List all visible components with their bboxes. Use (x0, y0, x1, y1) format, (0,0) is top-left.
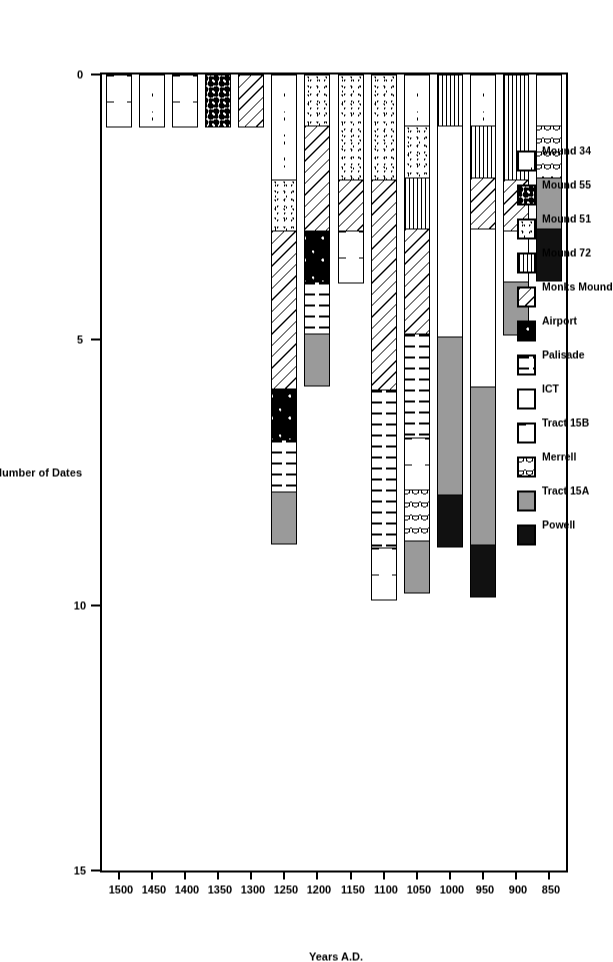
y-axis-tick-label: 10 (66, 599, 94, 611)
x-axis-tick-label-1100: 1100 (369, 883, 403, 895)
bar-segment (271, 491, 297, 544)
stacked-bars-container (102, 74, 566, 870)
legend-swatch-icon (517, 320, 536, 341)
bar-segment (304, 74, 330, 127)
bar-segment (437, 336, 463, 495)
legend-label: Airport (542, 314, 577, 326)
x-axis-tick-label-1000: 1000 (435, 883, 469, 895)
bar-group-1450 (139, 74, 165, 125)
bar-segment (371, 179, 397, 391)
x-axis-tick (250, 870, 252, 879)
x-axis-tick-label-1200: 1200 (302, 883, 336, 895)
bar-segment (437, 125, 463, 337)
bar-segment (371, 74, 397, 180)
bar-segment (271, 230, 297, 389)
bar-segment (172, 74, 198, 127)
bar-segment (205, 74, 231, 127)
bar-group-950 (470, 74, 496, 595)
x-axis-title: Years A.D. (296, 950, 376, 962)
bar-segment (470, 125, 496, 178)
bar-segment (271, 439, 297, 492)
x-axis-tick-label-1250: 1250 (269, 883, 303, 895)
bar-segment (106, 74, 132, 127)
legend-label: Mound 51 (542, 212, 591, 224)
legend-label: Palisade (542, 348, 585, 360)
bar-segment (271, 179, 297, 232)
x-axis-tick (416, 870, 418, 879)
legend-label: Merrell (542, 450, 576, 462)
legend-swatch-icon (517, 490, 536, 511)
bar-segment (470, 386, 496, 545)
legend-swatch-icon (517, 252, 536, 273)
legend-label: Tract 15A (542, 484, 589, 496)
bar-segment (437, 494, 463, 547)
bar-segment (304, 125, 330, 231)
legend-label: Monks Mound (542, 280, 613, 292)
legend-swatch-icon (517, 422, 536, 443)
bar-segment (304, 333, 330, 386)
bar-segment (404, 489, 430, 542)
bar-group-1300 (238, 74, 264, 125)
bar-segment (338, 230, 364, 283)
x-axis-tick-label-1050: 1050 (402, 883, 436, 895)
x-axis-tick-label-1350: 1350 (203, 883, 237, 895)
bar-segment (338, 179, 364, 232)
x-axis-tick (283, 870, 285, 879)
y-axis-tick-label: 5 (66, 333, 94, 345)
bar-group-1100 (371, 74, 397, 598)
bar-group-1150 (338, 74, 364, 281)
bar-segment (536, 74, 562, 127)
bar-segment (304, 281, 330, 334)
y-axis-title: Number of Dates (0, 466, 83, 478)
legend-swatch-icon (517, 354, 536, 375)
bar-group-1200 (304, 74, 330, 384)
legend-swatch-icon (517, 184, 536, 205)
x-axis-tick (151, 870, 153, 879)
x-axis-tick-label-1450: 1450 (137, 883, 171, 895)
x-axis-tick-label-1150: 1150 (336, 883, 370, 895)
x-axis-tick (383, 870, 385, 879)
bar-segment (304, 230, 330, 283)
legend-label: Mound 34 (542, 144, 591, 156)
x-axis-tick-label-1400: 1400 (170, 883, 204, 895)
legend-label: Tract 15B (542, 416, 589, 428)
x-axis-tick (449, 870, 451, 879)
bar-segment (371, 547, 397, 600)
x-axis-tick (184, 870, 186, 879)
bar-segment (404, 540, 430, 593)
bar-segment (470, 544, 496, 597)
bar-segment (470, 228, 496, 387)
bar-segment (404, 437, 430, 490)
x-axis-tick (217, 870, 219, 879)
legend-swatch-icon (517, 524, 536, 545)
legend-label: Powell (542, 518, 575, 530)
bar-group-1250 (271, 74, 297, 542)
bar-segment (404, 125, 430, 178)
y-axis-tick-label: 15 (66, 864, 94, 876)
legend-swatch-icon (517, 218, 536, 239)
bar-group-1050 (404, 74, 430, 592)
bar-segment (271, 74, 297, 180)
legend-label: ICT (542, 382, 559, 394)
x-axis-tick (118, 870, 120, 879)
legend-swatch-icon (517, 286, 536, 307)
legend-swatch-icon (517, 388, 536, 409)
legend-label: Mound 72 (542, 246, 591, 258)
bar-group-1400 (172, 74, 198, 125)
x-axis-tick (316, 870, 318, 879)
legend-label: Mound 55 (542, 178, 591, 190)
bar-segment (404, 177, 430, 230)
bar-segment (470, 177, 496, 230)
bar-segment (271, 388, 297, 441)
bar-segment (238, 74, 264, 127)
legend-swatch-icon (517, 150, 536, 171)
bar-group-1350 (205, 74, 231, 125)
bar-segment (437, 74, 463, 127)
y-axis-tick-label: 0 (66, 68, 94, 80)
x-axis-tick-label-900: 900 (501, 883, 535, 895)
bar-segment (371, 389, 397, 548)
bar-group-1500 (106, 74, 132, 125)
legend-swatch-icon (517, 456, 536, 477)
bar-segment (404, 74, 430, 127)
